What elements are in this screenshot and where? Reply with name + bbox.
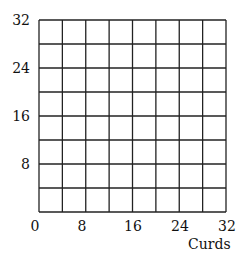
x-tick-16: 16 — [118, 219, 148, 233]
x-tick-8: 8 — [67, 219, 97, 233]
y-tick-24: 24 — [0, 61, 30, 75]
x-tick-24: 24 — [165, 219, 195, 233]
y-tick-16: 16 — [0, 109, 30, 123]
y-tick-32: 32 — [0, 13, 30, 27]
y-tick-8: 8 — [0, 157, 30, 171]
x-tick-32: 32 — [212, 219, 242, 233]
x-axis-title: Curds — [188, 236, 231, 252]
x-tick-0: 0 — [20, 219, 50, 233]
